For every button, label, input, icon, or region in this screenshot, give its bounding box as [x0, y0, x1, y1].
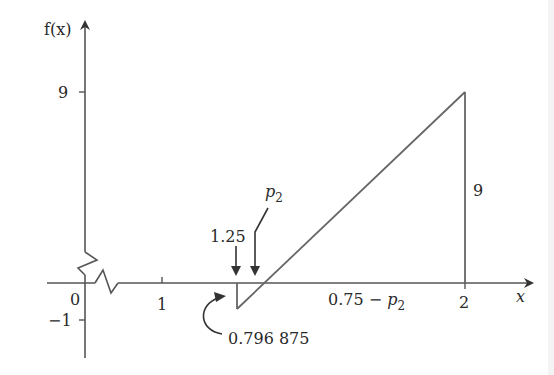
y-tick-label-9: 9 — [58, 83, 68, 102]
graph-labels: f(x) 9 −1 0 1 2 x 9 1.25 p2 0.796 875 0.… — [0, 0, 554, 375]
y-tick-label-minus1: −1 — [48, 311, 72, 330]
x-tick-label-2: 2 — [459, 293, 469, 312]
start-label: 1.25 — [210, 227, 246, 246]
x-axis-label: x — [516, 287, 525, 306]
root-label: p2 — [265, 182, 283, 205]
min-value-label: 0.796 875 — [228, 329, 309, 348]
y-axis-label: f(x) — [44, 20, 71, 39]
base-label: 0.75 − p2 — [328, 290, 405, 313]
height-label: 9 — [473, 181, 483, 200]
x-tick-label-0: 0 — [70, 290, 80, 309]
x-tick-label-1: 1 — [157, 295, 167, 314]
page-edge-shadow — [548, 0, 554, 375]
